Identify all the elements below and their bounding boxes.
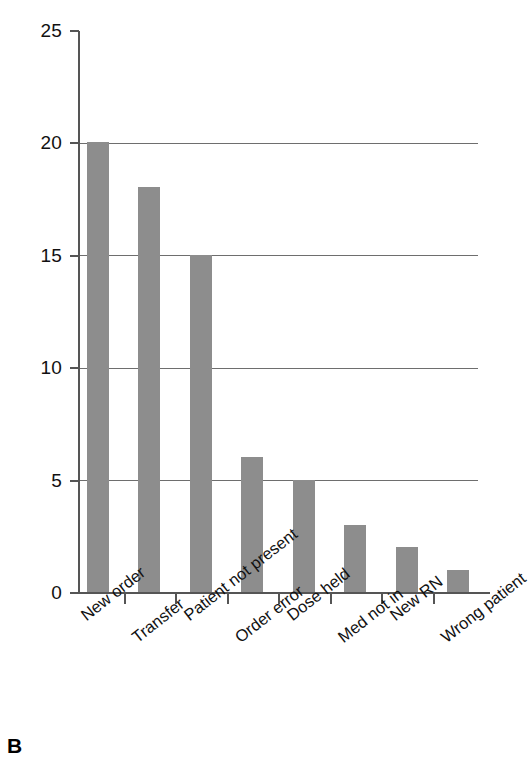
y-tick-label-5: 5 — [20, 471, 62, 490]
bar[interactable] — [138, 187, 160, 592]
y-tick-label-25: 25 — [20, 21, 62, 40]
bar[interactable] — [190, 255, 212, 592]
y-tick-label-15: 15 — [20, 246, 62, 265]
x-axis-label[interactable]: Transfer — [129, 595, 187, 645]
bar[interactable] — [87, 142, 109, 592]
bar[interactable] — [447, 570, 469, 592]
panel-letter: B — [7, 735, 22, 756]
y-tick-label-20: 20 — [20, 133, 62, 152]
y-tick-label-10: 10 — [20, 358, 62, 377]
bar[interactable] — [396, 547, 418, 592]
y-tick-label-0: 0 — [20, 583, 62, 602]
bar-series — [78, 31, 490, 592]
